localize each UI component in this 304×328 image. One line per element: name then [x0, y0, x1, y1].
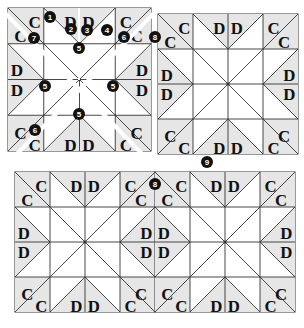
piece-label-d: D: [231, 139, 243, 158]
piece-label-c: C: [275, 191, 287, 210]
piece-label-d: D: [158, 224, 170, 243]
piece-label-d: D: [280, 243, 292, 262]
svg-text:7: 7: [32, 34, 37, 43]
step-marker-8: 8: [149, 178, 161, 190]
piece-label-d: D: [140, 224, 152, 243]
piece-label-d: D: [228, 297, 240, 316]
piece-label-c: C: [21, 285, 33, 304]
svg-text:5: 5: [43, 82, 48, 91]
svg-text:9: 9: [205, 158, 210, 167]
piece-label-c: C: [131, 124, 143, 143]
step-marker-6: 6: [118, 31, 130, 43]
svg-text:5: 5: [77, 44, 82, 53]
piece-label-c: C: [164, 127, 176, 146]
piece-label-d: D: [11, 81, 23, 100]
piece-label-c: C: [275, 285, 287, 304]
piece-label-d: D: [136, 61, 148, 80]
piece-label-d: D: [231, 19, 243, 38]
svg-text:6: 6: [122, 33, 127, 42]
piece-label-c: C: [178, 19, 190, 38]
piece-label-c: C: [175, 177, 187, 196]
quilt-diagram: CCCCCCCCDDDDDDDDCCCCCCCCDDDDDDDDCCCCCCCC…: [0, 0, 304, 328]
svg-text:8: 8: [153, 180, 158, 189]
piece-label-d: D: [18, 224, 30, 243]
piece-label-d: D: [11, 61, 23, 80]
step-marker-5: 5: [73, 108, 85, 120]
step-marker-6: 6: [29, 124, 41, 136]
piece-label-d: D: [70, 177, 82, 196]
piece-label-c: C: [161, 191, 173, 210]
piece-label-d: D: [88, 177, 100, 196]
svg-text:5: 5: [111, 82, 116, 91]
svg-text:2: 2: [69, 25, 74, 34]
step-marker-5: 5: [73, 42, 85, 54]
piece-label-d: D: [213, 139, 225, 158]
piece-label-c: C: [178, 139, 190, 158]
piece-label-c: C: [35, 297, 47, 316]
piece-label-d: D: [161, 66, 173, 85]
panel-3-block-right: CCCCCCCCDDDDDDDD: [155, 172, 295, 316]
step-marker-5: 5: [107, 80, 119, 92]
svg-text:3: 3: [85, 26, 90, 35]
step-marker-4: 4: [101, 24, 113, 36]
svg-text:8: 8: [153, 33, 158, 42]
piece-label-c: C: [14, 124, 26, 143]
panel-3-block-left: CCCCCCCCDDDDDDDD: [15, 172, 155, 316]
piece-label-d: D: [283, 66, 295, 85]
piece-label-c: C: [264, 297, 276, 316]
svg-text:6: 6: [33, 126, 38, 135]
step-marker-9: 9: [201, 156, 213, 168]
svg-text:1: 1: [48, 13, 53, 22]
panel-2-block: CCCCCCCCDDDDDDDD: [158, 14, 298, 158]
piece-label-d: D: [18, 243, 30, 262]
piece-label-d: D: [88, 297, 100, 316]
piece-label-d: D: [161, 85, 173, 104]
svg-text:4: 4: [105, 26, 110, 35]
piece-label-c: C: [278, 33, 290, 52]
piece-label-d: D: [140, 243, 152, 262]
piece-label-c: C: [35, 177, 47, 196]
step-marker-3: 3: [81, 24, 93, 36]
piece-label-c: C: [29, 13, 41, 32]
piece-label-c: C: [21, 191, 33, 210]
piece-label-d: D: [82, 136, 94, 155]
piece-label-d: D: [64, 136, 76, 155]
piece-label-d: D: [136, 81, 148, 100]
piece-label-c: C: [135, 285, 147, 304]
piece-label-d: D: [158, 243, 170, 262]
step-marker-8: 8: [149, 31, 161, 43]
piece-label-d: D: [210, 177, 222, 196]
piece-label-d: D: [228, 177, 240, 196]
step-marker-2: 2: [65, 23, 77, 35]
piece-label-d: D: [280, 224, 292, 243]
piece-label-c: C: [135, 191, 147, 210]
step-marker-7: 7: [28, 32, 40, 44]
piece-label-c: C: [267, 139, 279, 158]
piece-label-d: D: [70, 297, 82, 316]
piece-label-c: C: [164, 33, 176, 52]
piece-label-c: C: [161, 285, 173, 304]
piece-label-c: C: [124, 297, 136, 316]
svg-text:5: 5: [77, 110, 82, 119]
step-marker-1: 1: [44, 11, 56, 23]
piece-label-d: D: [283, 85, 295, 104]
piece-label-d: D: [213, 19, 225, 38]
step-marker-5: 5: [39, 80, 51, 92]
piece-label-c: C: [278, 127, 290, 146]
piece-label-d: D: [210, 297, 222, 316]
piece-label-c: C: [175, 297, 187, 316]
